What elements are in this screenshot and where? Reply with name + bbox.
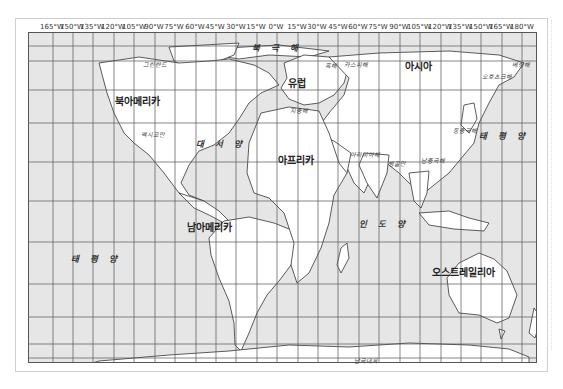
world-map — [28, 32, 537, 363]
label-okhotsk-sea: 오호츠크해 — [482, 72, 512, 81]
label-indian-ocean: 인 도 양 — [359, 217, 409, 229]
map-graphics — [29, 33, 537, 363]
longitude-label: 15°W — [287, 23, 306, 31]
label-caspian-sea: 카스피해 — [344, 60, 368, 69]
longitude-label: 90°W — [389, 23, 408, 31]
indonesia — [419, 211, 489, 231]
label-africa: 아프리카 — [278, 152, 314, 167]
label-south-america: 남아메리카 — [187, 219, 232, 234]
label-atlantic-ocean: 대 서 양 — [196, 137, 246, 149]
label-east-china-sea: 동중국해 — [453, 126, 477, 135]
longitude-label: 75°W — [164, 23, 183, 31]
longitude-label: 60°W — [348, 23, 367, 31]
label-arabian-sea: 아라비아해 — [350, 150, 380, 159]
longitude-label: 45°W — [205, 23, 224, 31]
longitude-label: 30°W — [307, 23, 326, 31]
label-black-sea: 흑해 — [325, 61, 337, 70]
madagascar — [337, 243, 349, 273]
label-asia: 아시아 — [405, 58, 432, 73]
longitude-label: 75°W — [368, 23, 387, 31]
label-north-america: 북아메리카 — [115, 93, 160, 108]
label-greenland: 그린란드 — [143, 60, 167, 69]
label-pacific-ocean-west: 태 평 양 — [71, 252, 121, 264]
label-australia: 오스트레일리아 — [432, 264, 495, 279]
new-zealand — [529, 308, 537, 338]
label-pacific-ocean-east: 태 평 양 — [479, 129, 529, 141]
longitude-label: 30°W — [226, 23, 245, 31]
label-arctic-ocean: 북 극 해 — [252, 41, 302, 53]
longitude-label: 15°W — [246, 23, 265, 31]
label-bering-sea: 베링해 — [512, 60, 530, 69]
label-europe: 유럽 — [288, 75, 306, 90]
longitude-label: 105°W — [122, 23, 146, 31]
southeast-asia — [409, 171, 429, 208]
land-masses — [89, 43, 537, 363]
label-antarctica: 남극대륙 — [354, 356, 378, 365]
page-edge — [551, 20, 553, 350]
label-mediterranean: 지중해 — [290, 106, 308, 115]
longitude-label: 0°W — [269, 23, 284, 31]
label-bay-of-bengal: 벵골만 — [388, 159, 406, 168]
longitude-label: 45°W — [328, 23, 347, 31]
longitude-label: 60°W — [185, 23, 204, 31]
label-south-china-sea: 남중국해 — [421, 156, 445, 165]
longitude-label: 180°W — [510, 23, 534, 31]
longitude-label: 90°W — [144, 23, 163, 31]
label-gulf-of-mexico: 멕시코만 — [141, 130, 165, 139]
